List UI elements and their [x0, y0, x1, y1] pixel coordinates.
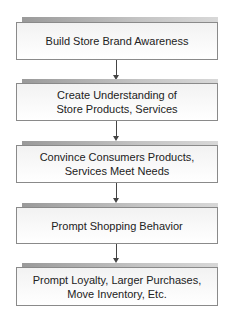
arrow-4-5-line	[116, 244, 117, 259]
step-4-box: Prompt Shopping Behavior	[16, 207, 218, 244]
arrow-1-2-line	[116, 60, 117, 76]
step-2-box: Create Understanding of Store Products, …	[16, 83, 218, 121]
step-3-box: Convince Consumers Products, Services Me…	[16, 145, 218, 183]
step-4-label: Prompt Shopping Behavior	[51, 219, 182, 233]
step-2-label: Create Understanding of Store Products, …	[56, 88, 177, 116]
step-5-label: Prompt Loyalty, Larger Purchases, Move I…	[33, 273, 202, 301]
arrow-3-4-line	[116, 183, 117, 199]
step-1-label: Build Store Brand Awareness	[46, 34, 189, 48]
step-1-box: Build Store Brand Awareness	[16, 22, 218, 60]
step-5-box: Prompt Loyalty, Larger Purchases, Move I…	[16, 267, 218, 306]
arrow-2-3-line	[116, 121, 117, 137]
step-3-label: Convince Consumers Products, Services Me…	[40, 150, 195, 178]
